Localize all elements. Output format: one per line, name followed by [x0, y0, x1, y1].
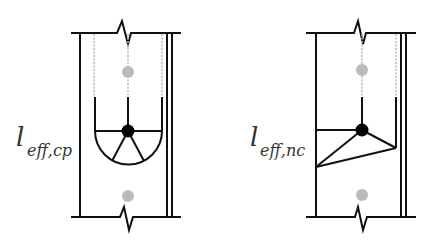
label-main-cp: l	[16, 124, 24, 150]
bolt-inactive-top	[356, 64, 368, 76]
bolt-inactive-top	[122, 66, 134, 78]
label-sub-nc: eff,nc	[260, 143, 305, 159]
bolt-active	[122, 125, 135, 138]
bottom-break-line	[71, 207, 181, 230]
top-break-line	[71, 21, 181, 44]
diagram-canvas	[0, 0, 437, 243]
bolt-active	[356, 124, 369, 137]
bolt-inactive-bottom	[356, 189, 368, 201]
bolt-inactive-bottom	[122, 190, 134, 202]
label-sub-cp: eff,cp	[27, 143, 72, 159]
label-main-nc: l	[250, 124, 258, 150]
bottom-break-line	[306, 207, 416, 230]
top-break-line	[306, 21, 416, 44]
dashed-guides	[362, 34, 396, 97]
